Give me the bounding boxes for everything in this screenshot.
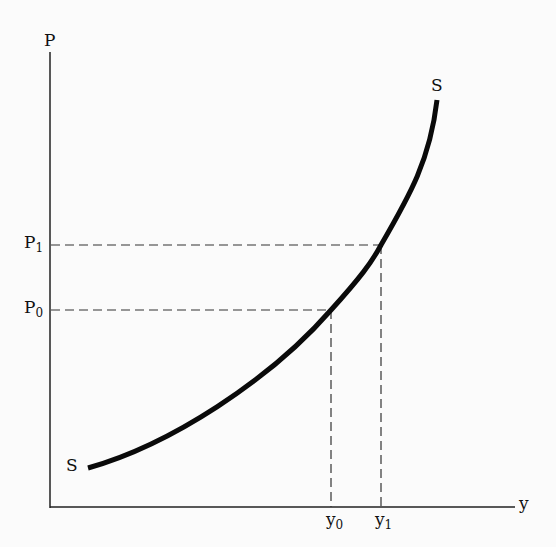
- y1-tick-label: y1: [375, 511, 392, 531]
- curve-label-bottom: S: [66, 457, 78, 474]
- diagram-canvas: [0, 0, 556, 547]
- curve-label-top: S: [431, 77, 443, 94]
- y0-subscript: 0: [336, 518, 344, 532]
- p1-subscript: 1: [35, 241, 43, 255]
- p0-subscript: 0: [35, 306, 43, 320]
- y-axis-label: P: [44, 32, 55, 49]
- y0-tick-label: y0: [326, 511, 343, 531]
- x-axis-label: y: [519, 495, 529, 512]
- p0-tick-label: P0: [24, 299, 43, 319]
- y0-text: y: [326, 509, 336, 529]
- p1-tick-label: P1: [24, 234, 43, 254]
- y1-text: y: [375, 509, 385, 529]
- p1-text: P: [24, 232, 35, 252]
- supply-curve: [88, 100, 437, 468]
- p0-text: P: [24, 297, 35, 317]
- supply-curve-diagram: P y S S P1 P0 y0 y1: [0, 0, 556, 547]
- y1-subscript: 1: [385, 518, 393, 532]
